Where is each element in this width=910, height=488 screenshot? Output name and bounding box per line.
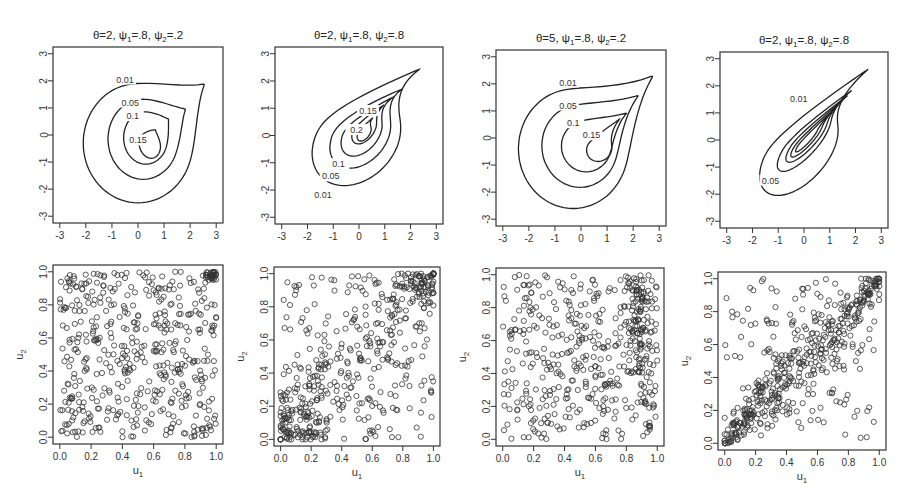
- y-tick-label: 0.0: [39, 430, 50, 444]
- y-tick-label: 2: [39, 78, 50, 84]
- x-tick-label: -3: [722, 235, 731, 246]
- contour-label: 0.15: [583, 130, 601, 140]
- x-axis: -3-2-10123: [55, 223, 219, 241]
- contour-label: 0.15: [129, 135, 147, 145]
- contour-label: 0.01: [559, 78, 577, 88]
- x-tick-label: 1.0: [872, 457, 886, 468]
- x-tick-label: 2: [187, 230, 193, 241]
- plot-frame: [720, 52, 888, 228]
- x-tick-label: -1: [550, 233, 559, 244]
- x-tick-label: 0.8: [841, 457, 855, 468]
- contour-label: 0.1: [332, 159, 345, 169]
- scatter-points: [278, 271, 436, 442]
- contour-line: [518, 76, 652, 208]
- x-axis: 0.00.20.40.60.81.0: [496, 446, 665, 464]
- x-tick-label: -2: [524, 233, 533, 244]
- x-tick-label: 2: [630, 233, 636, 244]
- y-tick-label: 0.8: [704, 304, 715, 318]
- y-axis: 0.00.20.40.60.81.0: [482, 267, 497, 446]
- y-tick-label: 0.4: [704, 370, 715, 384]
- y-tick-label: 0.0: [260, 432, 271, 446]
- contour-label: 0.01: [790, 94, 808, 104]
- y-tick-label: -3: [261, 212, 272, 221]
- x-tick-label: -3: [277, 231, 286, 242]
- x-tick-label: 0.6: [365, 453, 379, 464]
- y-tick-label: -1: [39, 157, 50, 166]
- contour-label: 0.1: [567, 118, 580, 128]
- x-tick-label: -1: [329, 231, 338, 242]
- x-axis: 0.00.20.40.60.81.0: [718, 450, 887, 468]
- x-tick-label: -2: [748, 235, 757, 246]
- y-tick-label: 3: [482, 54, 493, 60]
- x-tick-label: 0.0: [53, 451, 67, 462]
- x-tick-label: 0: [801, 235, 807, 246]
- x-axis: 0.00.20.40.60.81.0: [274, 446, 441, 464]
- y-axis: 0.00.20.40.60.81.0: [704, 271, 719, 450]
- y-tick-label: -2: [482, 187, 493, 196]
- x-tick-label: 3: [213, 230, 219, 241]
- y-tick-label: -3: [706, 216, 717, 225]
- y-tick-label: -2: [39, 184, 50, 193]
- scatter-panel-3: 0.00.20.40.60.81.00.00.20.40.60.81.0u1u2: [456, 267, 665, 481]
- x-tick-label: 3: [878, 235, 884, 246]
- plot-frame: [275, 47, 443, 224]
- plot-frame: [274, 267, 440, 446]
- y-axis-label: u2: [456, 351, 471, 362]
- contour-label: 0.15: [359, 106, 377, 116]
- y-tick-label: 1: [706, 110, 717, 116]
- y-tick-label: 0.0: [704, 436, 715, 450]
- y-tick-label: 2: [482, 81, 493, 87]
- x-tick-label: 0: [135, 230, 141, 241]
- scatter-panel-4: 0.00.20.40.60.81.00.00.20.40.60.81.0u1u2: [678, 271, 887, 485]
- y-tick-label: 0: [706, 137, 717, 143]
- y-axis: -3-2-10123: [482, 54, 497, 224]
- y-tick-label: 1.0: [39, 264, 50, 278]
- y-axis: -3-2-10123: [39, 51, 54, 221]
- contour-panel-1: θ=2, ψ1=.8, ψ2=.2-3-2-10123-3-2-101230.0…: [39, 29, 224, 241]
- x-tick-label: 0.4: [115, 451, 129, 462]
- panel-title: θ=5, ψ1=.8, ψ2=.2: [536, 32, 626, 47]
- y-tick-label: 0.6: [260, 333, 271, 347]
- x-tick-label: 0: [356, 231, 362, 242]
- contour-label: 0.05: [322, 171, 340, 181]
- x-tick-label: -2: [81, 230, 90, 241]
- contour-label: 0.2: [350, 125, 363, 135]
- x-axis: -3-2-10123: [722, 228, 884, 246]
- x-tick-label: 0.2: [84, 451, 98, 462]
- y-tick-label: 0.4: [482, 366, 493, 380]
- x-axis-label: u1: [133, 464, 144, 479]
- x-tick-label: 0.2: [304, 453, 318, 464]
- y-axis: 0.00.20.40.60.81.0: [39, 264, 54, 444]
- y-tick-label: -1: [261, 158, 272, 167]
- x-tick-label: 0.2: [527, 453, 541, 464]
- contour-panel-4: θ=2, ψ1=.8, ψ2=.8-3-2-10123-3-2-101230.0…: [706, 34, 889, 246]
- x-tick-label: -3: [498, 233, 507, 244]
- x-tick-label: 0.0: [718, 457, 732, 468]
- y-tick-label: 2: [706, 83, 717, 89]
- scatter-panel-1: 0.00.20.40.60.81.00.00.20.40.60.81.0u1u2: [13, 264, 224, 479]
- y-axis-label: u2: [234, 351, 249, 362]
- y-tick-label: 1.0: [260, 266, 271, 280]
- y-axis: -3-2-10123: [706, 56, 721, 226]
- y-tick-label: 0.6: [39, 331, 50, 345]
- y-tick-label: 1.0: [482, 267, 493, 281]
- contour-label: 0.01: [116, 75, 134, 85]
- x-tick-label: 0.0: [496, 453, 510, 464]
- y-tick-label: 0.2: [260, 399, 271, 413]
- x-axis: -3-2-10123: [498, 226, 662, 244]
- scatter-panel-2: 0.00.20.40.60.81.00.00.20.40.60.81.0u1u2: [234, 266, 441, 481]
- x-axis-label: u1: [352, 466, 363, 481]
- y-tick-label: -3: [39, 211, 50, 220]
- y-tick-label: -1: [482, 160, 493, 169]
- figure-canvas: θ=2, ψ1=.8, ψ2=.2-3-2-10123-3-2-101230.0…: [0, 0, 910, 488]
- y-axis-label: u2: [13, 349, 28, 360]
- x-tick-label: 1: [382, 231, 388, 242]
- y-tick-label: 0.2: [482, 399, 493, 413]
- scatter-points: [722, 276, 882, 446]
- y-tick-label: 0.4: [39, 364, 50, 378]
- x-axis: -3-2-10123: [277, 224, 439, 242]
- y-tick-label: -1: [706, 162, 717, 171]
- panel-title: θ=2, ψ1=.8, ψ2=.2: [93, 29, 183, 44]
- x-tick-label: 1: [161, 230, 167, 241]
- x-tick-label: 0.2: [749, 457, 763, 468]
